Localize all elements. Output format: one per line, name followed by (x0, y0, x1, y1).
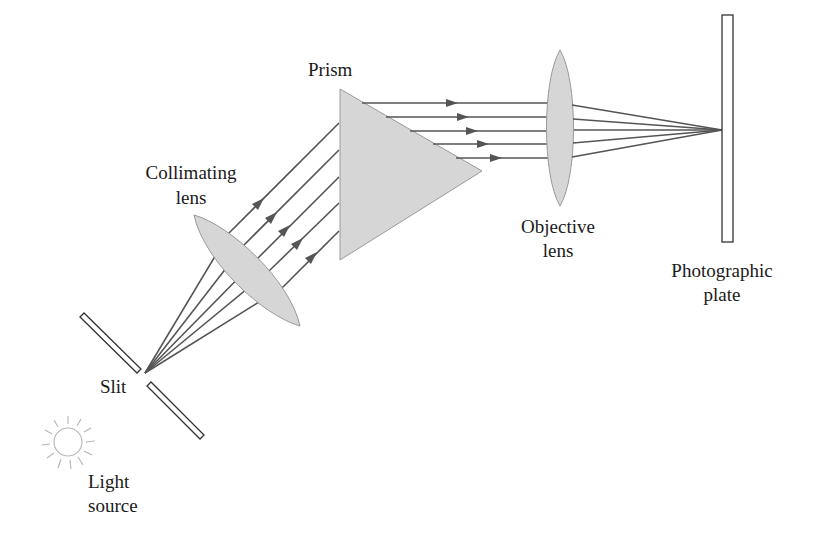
slit-label: Slit (100, 376, 127, 397)
light-source-icon (42, 416, 95, 469)
light-source-label-2: source (88, 495, 138, 516)
objective-lens-label-2: lens (543, 240, 574, 261)
objective-lens (547, 50, 574, 206)
collimating-lens-label: Collimating (146, 162, 237, 183)
spectrograph-diagram: Prism Collimating lens Objective lens Ph… (0, 0, 828, 541)
light-source-label: Light (88, 471, 130, 492)
photographic-plate-label-2: plate (704, 284, 741, 305)
photographic-plate (722, 15, 733, 242)
collimating-lens-label-2: lens (176, 187, 207, 208)
converging-rays (572, 105, 722, 157)
prism-label: Prism (308, 59, 353, 80)
photographic-plate-label: Photographic (671, 260, 772, 281)
objective-lens-label: Objective (521, 216, 595, 237)
